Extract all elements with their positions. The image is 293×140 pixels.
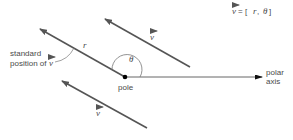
polar-axis-label-line1: polar [266, 68, 284, 77]
vector-formula: v = [ r , θ ] [232, 5, 271, 16]
formula-theta: θ [263, 6, 268, 16]
standard-position-label-line2: position of [10, 59, 47, 68]
theta-label: θ [129, 54, 134, 64]
polar-axis-label-line2: axis [266, 77, 280, 86]
formula-close: ] [269, 7, 271, 16]
upper-vector-label: v [150, 32, 154, 42]
standard-position-label-line1: standard [10, 49, 41, 58]
r-label: r [83, 40, 87, 50]
formula-comma: , [257, 7, 259, 16]
pole-point [123, 75, 128, 80]
standard-position-vector-symbol: v [49, 58, 53, 68]
polar-vector-diagram: r θ pole polar axis standard position of… [0, 0, 293, 140]
theta-angle-arc [112, 55, 142, 77]
formula-equals: = [ [238, 7, 248, 16]
standard-position-leader [55, 48, 74, 62]
upper-equivalent-vector [105, 19, 190, 67]
lower-vector-label: v [96, 108, 100, 118]
pole-label: pole [118, 83, 134, 92]
formula-vector: v [232, 6, 236, 16]
lower-equivalent-vector [62, 81, 147, 128]
